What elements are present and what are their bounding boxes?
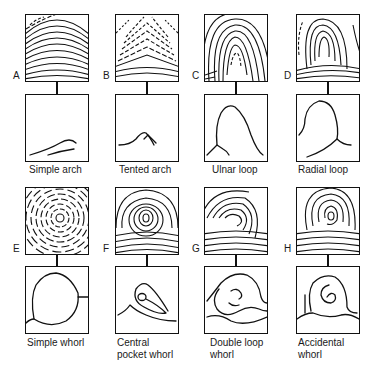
ridge-diagram-accidental-whorl <box>296 266 360 334</box>
panel-letter: G <box>192 244 200 254</box>
ridge-diagram-tented-arch <box>115 94 179 162</box>
connector-line <box>56 81 58 94</box>
ridge-diagram-ulnar-loop <box>204 94 268 162</box>
fingerprint-photo-accidental-whorl <box>296 187 360 255</box>
caption: Accidental whorl <box>298 337 344 361</box>
connector-line <box>146 81 148 94</box>
ridge-diagram-double-loop-whorl <box>204 266 268 334</box>
panel-letter: D <box>284 71 291 81</box>
connector-line <box>327 81 329 94</box>
fingerprint-photo-central-pocket-whorl <box>115 187 179 255</box>
ridge-diagram-radial-loop <box>296 94 360 162</box>
caption: Tented arch <box>119 164 171 176</box>
caption: Central pocket whorl <box>117 337 173 361</box>
fingerprint-photo-simple-whorl <box>25 187 89 255</box>
panel-letter: H <box>284 244 291 254</box>
fingerprint-photo-radial-loop <box>296 14 360 82</box>
connector-line <box>146 254 148 266</box>
caption: Radial loop <box>298 164 348 176</box>
fingerprint-photo-ulnar-loop <box>204 14 268 82</box>
connector-line <box>56 254 58 266</box>
panel-letter: B <box>103 71 110 81</box>
panel-letter: C <box>192 71 199 81</box>
panel-letter: A <box>13 71 20 81</box>
connector-line <box>327 254 329 266</box>
ridge-diagram-simple-whorl <box>25 266 89 334</box>
caption: Simple whorl <box>27 337 84 349</box>
fingerprint-photo-simple-arch <box>25 14 89 82</box>
ridge-diagram-simple-arch <box>25 94 89 162</box>
caption: Ulnar loop <box>212 164 258 176</box>
caption: Double loop whorl <box>210 337 263 361</box>
fingerprint-photo-double-loop-whorl <box>204 187 268 255</box>
fingerprint-photo-tented-arch <box>115 14 179 82</box>
connector-line <box>235 81 237 94</box>
caption: Simple arch <box>29 164 82 176</box>
ridge-diagram-central-pocket-whorl <box>115 266 179 334</box>
connector-line <box>235 254 237 266</box>
panel-letter: E <box>13 244 20 254</box>
panel-letter: F <box>103 244 109 254</box>
